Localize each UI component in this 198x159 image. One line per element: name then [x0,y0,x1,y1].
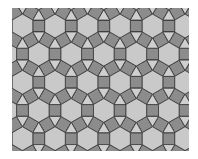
triangle-tile [0,10,12,20]
square-tile [0,116,6,132]
triangle-tile [195,32,198,42]
triangle-tile [0,66,12,76]
square-tile [114,0,126,4]
square-tile [0,145,6,159]
triangle-tile [0,122,12,132]
tile-group [0,0,198,159]
triangle-tile [195,122,198,132]
triangle-tile [49,151,61,159]
triangle-tile [0,32,12,42]
triangle-tile [0,145,12,155]
square-tile [179,105,191,117]
square-tile [195,133,198,145]
square-tile [0,133,12,145]
square-tile [82,105,94,117]
square-tile [163,20,175,32]
triangle-tile [82,151,94,159]
tiling-figure [0,0,198,159]
triangle-tile [195,66,198,76]
square-tile [17,0,29,4]
triangle-tile [195,66,198,76]
triangle-tile [179,151,191,159]
square-tile [0,4,6,20]
triangle-tile [195,88,198,98]
triangle-tile [114,151,126,159]
triangle-tile [147,151,159,159]
square-tile [0,20,12,32]
square-tile [195,20,198,32]
triangle-tile [17,151,29,159]
triangle-tile [0,122,12,132]
square-tile [0,76,12,88]
square-tile [147,0,159,4]
triangle-tile [114,151,126,159]
square-tile [147,0,159,4]
triangle-tile [195,88,198,98]
triangle-tile [0,32,12,42]
square-tile [17,0,29,4]
triangle-tile [179,151,191,159]
square-tile [49,105,61,117]
triangle-tile [0,88,12,98]
square-tile [98,76,110,88]
square-tile [0,60,6,76]
triangle-tile [0,88,12,98]
square-tile [195,76,198,88]
hexagon-tile [191,0,198,10]
triangle-tile [195,122,198,132]
square-tile [0,133,12,145]
square-tile [130,76,142,88]
square-tile [98,133,110,145]
square-tile [82,48,94,60]
triangle-tile [114,151,126,159]
square-tile [0,76,12,88]
square-tile [0,60,6,76]
hexagon-tile [126,155,147,159]
triangle-tile [0,32,12,42]
hexagon-tile [28,155,49,159]
triangle-tile [17,151,29,159]
square-tile [17,105,29,117]
triangle-tile [0,122,12,132]
square-tile [114,105,126,117]
square-tile [179,0,191,4]
square-tile [0,32,6,48]
square-tile [163,76,175,88]
square-tile [33,20,45,32]
triangle-tile [49,151,61,159]
square-tile [0,116,6,132]
triangle-tile [0,145,12,155]
triangle-tile [195,10,198,20]
triangle-tile [0,88,12,98]
hexagon-tile [191,42,198,66]
hexagon-tile [191,99,198,123]
square-tile [147,48,159,60]
square-tile [65,133,77,145]
hexagon-tile [0,155,17,159]
square-tile [114,48,126,60]
square-tile [98,20,110,32]
square-tile [195,133,198,145]
triangle-tile [82,151,94,159]
square-tile [0,4,6,20]
square-tile [49,48,61,60]
triangle-tile [195,122,198,132]
square-tile [33,76,45,88]
triangle-tile [0,145,12,155]
square-tile [82,0,94,4]
hexagon-tile [61,155,82,159]
square-tile [65,20,77,32]
square-tile [0,88,6,104]
square-tile [0,32,6,48]
triangle-tile [195,32,198,42]
triangle-tile [179,151,191,159]
triangle-tile [195,66,198,76]
triangle-tile [0,66,12,76]
triangle-tile [49,151,61,159]
triangle-tile [147,151,159,159]
triangle-tile [195,88,198,98]
square-tile [147,105,159,117]
square-tile [130,133,142,145]
square-tile [163,133,175,145]
triangle-tile [195,145,198,155]
